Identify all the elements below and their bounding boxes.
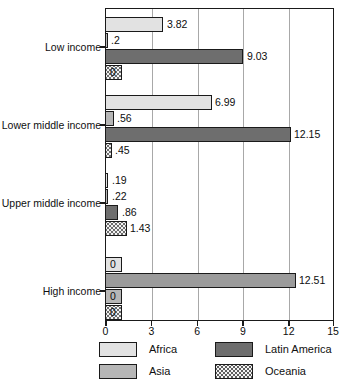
legend-item-africa: Africa: [99, 341, 209, 359]
legend-swatch-africa-icon: [99, 342, 137, 357]
bar-value-low-income-asia: .2: [111, 33, 120, 48]
bar-low-income-asia: [105, 33, 108, 48]
bar-low-income-africa: [105, 17, 163, 32]
bar-value-high-income-latin-america: 12.51: [299, 273, 325, 288]
legend-item-latin-america: Latin America: [215, 341, 345, 359]
bar-chart: Low income Lower middle income Upper mid…: [0, 0, 349, 386]
bar-value-high-income-oceania: 0: [110, 305, 116, 320]
legend: Africa Latin America Asia Oceania: [0, 336, 349, 386]
bar-value-high-income-asia: 0: [110, 289, 116, 304]
bar-value-upper-middle-income-oceania: 1.43: [130, 221, 150, 236]
bar-high-income-latin-america: [105, 273, 296, 288]
bar-value-low-income-africa: 3.82: [167, 17, 187, 32]
bar-low-income-latin-america: [105, 49, 243, 64]
category-label-lower-middle-income: Lower middle income: [0, 119, 101, 131]
bar-value-upper-middle-income-asia: .22: [112, 189, 127, 204]
bar-value-low-income-oceania: 0: [110, 65, 116, 80]
bar-value-lower-middle-income-asia: .56: [117, 111, 132, 126]
legend-swatch-oceania-icon: [215, 364, 253, 379]
bar-value-lower-middle-income-latin-america: 12.15: [294, 127, 320, 142]
bar-value-lower-middle-income-africa: 6.99: [215, 95, 235, 110]
bar-upper-middle-income-oceania: [105, 221, 127, 236]
bar-value-lower-middle-income-oceania: .45: [115, 143, 130, 158]
bar-upper-middle-income-asia: [105, 189, 108, 204]
category-label-low-income: Low income: [0, 41, 101, 53]
legend-swatch-latin-america-icon: [215, 342, 253, 357]
bar-lower-middle-income-latin-america: [105, 127, 291, 142]
bar-value-upper-middle-income-africa: .19: [112, 173, 127, 188]
bar-value-upper-middle-income-latin-america: .86: [122, 205, 137, 220]
category-label-high-income: High income: [0, 285, 101, 297]
bar-upper-middle-income-latin-america: [105, 205, 118, 220]
bar-upper-middle-income-africa: [105, 173, 108, 188]
bar-lower-middle-income-asia: [105, 111, 114, 126]
legend-label-oceania: Oceania: [265, 363, 306, 380]
legend-label-latin-america: Latin America: [265, 341, 332, 358]
legend-label-africa: Africa: [149, 341, 177, 358]
category-label-upper-middle-income: Upper middle income: [0, 197, 101, 209]
legend-item-asia: Asia: [99, 363, 209, 381]
bar-value-low-income-latin-america: 9.03: [247, 49, 267, 64]
bar-value-high-income-africa: 0: [110, 257, 116, 272]
legend-item-oceania: Oceania: [215, 363, 345, 381]
legend-label-asia: Asia: [149, 363, 170, 380]
bar-lower-middle-income-oceania: [105, 143, 112, 158]
bar-lower-middle-income-africa: [105, 95, 212, 110]
legend-swatch-asia-icon: [99, 364, 137, 379]
